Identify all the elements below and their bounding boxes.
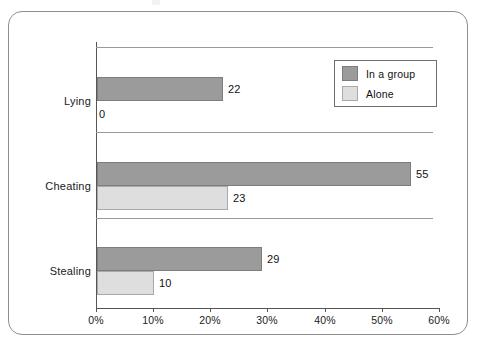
top-edge-artifact — [152, 0, 160, 5]
group-separator-top — [96, 47, 433, 48]
x-tick-mark-1 — [153, 308, 154, 312]
legend-swatch-icon-in-a-group — [342, 66, 358, 81]
x-tick-label-6: 60% — [428, 314, 450, 326]
chart-frame: 0% 10% 20% 30% 40% 50% 60% Lying Cheatin… — [8, 11, 468, 335]
bar-value-stealing-in-a-group: 29 — [267, 253, 280, 265]
x-tick-label-1: 10% — [142, 314, 164, 326]
category-label-stealing: Stealing — [31, 265, 91, 277]
legend-label-in-a-group: In a group — [366, 68, 415, 80]
group-separator-cheating-stealing — [96, 218, 433, 219]
legend-swatch-icon-alone — [342, 86, 358, 101]
bar-value-stealing-alone: 10 — [159, 277, 172, 289]
x-tick-label-4: 40% — [314, 314, 336, 326]
legend-label-alone: Alone — [366, 88, 394, 100]
bar-value-lying-alone: 0 — [99, 108, 105, 120]
bar-cheating-alone[interactable] — [97, 186, 228, 210]
bar-value-lying-in-a-group: 22 — [228, 83, 241, 95]
bar-stealing-alone[interactable] — [97, 271, 154, 295]
category-label-lying: Lying — [31, 95, 91, 107]
legend-entry-alone[interactable]: Alone — [342, 86, 394, 101]
bar-lying-in-a-group[interactable] — [97, 77, 223, 101]
x-tick-mark-4 — [325, 308, 326, 312]
chart-legend: In a group Alone — [334, 60, 437, 107]
x-tick-label-2: 20% — [199, 314, 221, 326]
legend-entry-in-a-group[interactable]: In a group — [342, 66, 415, 81]
x-tick-mark-5 — [382, 308, 383, 312]
group-separator-lying-cheating — [96, 132, 433, 133]
x-tick-label-0: 0% — [88, 314, 104, 326]
x-tick-mark-3 — [267, 308, 268, 312]
x-tick-label-5: 50% — [371, 314, 393, 326]
bar-value-cheating-in-a-group: 55 — [416, 168, 429, 180]
bar-value-cheating-alone: 23 — [233, 192, 246, 204]
x-tick-mark-0 — [96, 308, 97, 312]
bar-stealing-in-a-group[interactable] — [97, 247, 262, 271]
x-tick-mark-6 — [439, 308, 440, 312]
x-axis-line — [96, 308, 440, 309]
category-label-cheating: Cheating — [31, 180, 91, 192]
x-tick-mark-2 — [210, 308, 211, 312]
chart-screenshot: 0% 10% 20% 30% 40% 50% 60% Lying Cheatin… — [0, 0, 480, 347]
x-tick-label-3: 30% — [256, 314, 278, 326]
bar-cheating-in-a-group[interactable] — [97, 162, 411, 186]
